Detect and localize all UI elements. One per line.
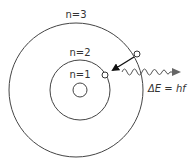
electron-final [102, 72, 108, 78]
orbit-n3 [9, 23, 143, 157]
label-n2: n=2 [69, 47, 90, 58]
label-n1: n=1 [69, 69, 90, 80]
label-n3: n=3 [65, 9, 86, 20]
transition-arrow [113, 57, 134, 70]
nucleus [73, 83, 87, 97]
bohr-model-diagram: n=3 n=2 n=1 ΔE = hf [0, 0, 196, 168]
energy-equation: ΔE = hf [147, 83, 187, 94]
photon-arrowhead-icon [172, 68, 181, 76]
electron-initial [134, 51, 140, 57]
photon-wave [122, 69, 172, 75]
